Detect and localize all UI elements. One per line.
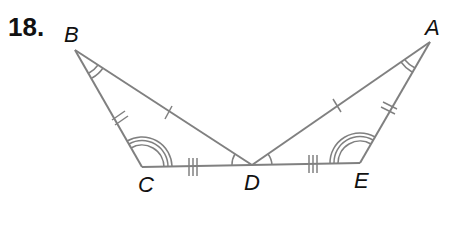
- segment-BC: [75, 50, 142, 167]
- vertex-label-E: E: [354, 168, 369, 194]
- angle-mark-D-right: [268, 154, 272, 165]
- segment-AD: [252, 42, 430, 165]
- vertex-label-A: A: [425, 15, 440, 41]
- vertex-label-B: B: [64, 22, 79, 48]
- vertex-label-C: C: [138, 172, 154, 198]
- segment-BD: [75, 50, 252, 165]
- tick-marks-BC: [112, 111, 128, 125]
- vertex-label-D: D: [244, 170, 260, 196]
- segment-AE: [360, 42, 430, 163]
- angle-mark-D-left: [232, 154, 235, 165]
